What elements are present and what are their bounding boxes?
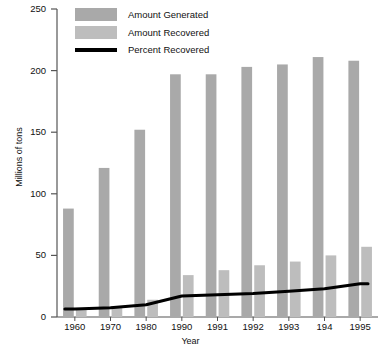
bar-generated-1993 <box>277 64 288 317</box>
x-tick-label-1960: 1960 <box>55 322 95 332</box>
legend-label-percent-recovered: Percent Recovered <box>128 45 209 55</box>
bar-generated-1992 <box>241 67 252 317</box>
bars-amount-generated <box>63 57 359 317</box>
x-tick-label-1980: 1980 <box>126 322 166 332</box>
x-tick-label-1992: 1992 <box>233 322 273 332</box>
x-tick-label-1990: 1990 <box>162 322 202 332</box>
legend-swatch-amount-generated <box>75 8 117 21</box>
bar-generated-1995 <box>348 61 359 317</box>
x-tick-label-1993: 1993 <box>269 322 309 332</box>
x-tick-label-1995: 1995 <box>340 322 380 332</box>
chart-figure: Millions of tons Year 250 200 150 100 50… <box>0 0 381 353</box>
x-tick-label-194: 194 <box>305 322 345 332</box>
legend-swatch-amount-recovered <box>75 26 117 39</box>
bar-generated-1960 <box>63 209 74 317</box>
legend-label-amount-generated: Amount Generated <box>128 10 208 20</box>
bar-recovered-1960 <box>76 310 87 317</box>
bar-generated-1980 <box>134 130 145 317</box>
bar-generated-1990 <box>170 74 181 317</box>
bar-generated-1970 <box>99 168 110 317</box>
legend-swatch-percent-recovered <box>75 48 117 52</box>
bar-recovered-1992 <box>254 265 265 317</box>
x-tick-label-1970: 1970 <box>91 322 131 332</box>
legend-label-amount-recovered: Amount Recovered <box>128 28 209 38</box>
bar-recovered-1995 <box>361 247 372 317</box>
y-axis-ticks <box>51 9 57 317</box>
x-tick-label-1991: 1991 <box>198 322 238 332</box>
bar-generated-194 <box>313 57 324 317</box>
bar-generated-1991 <box>206 74 217 317</box>
